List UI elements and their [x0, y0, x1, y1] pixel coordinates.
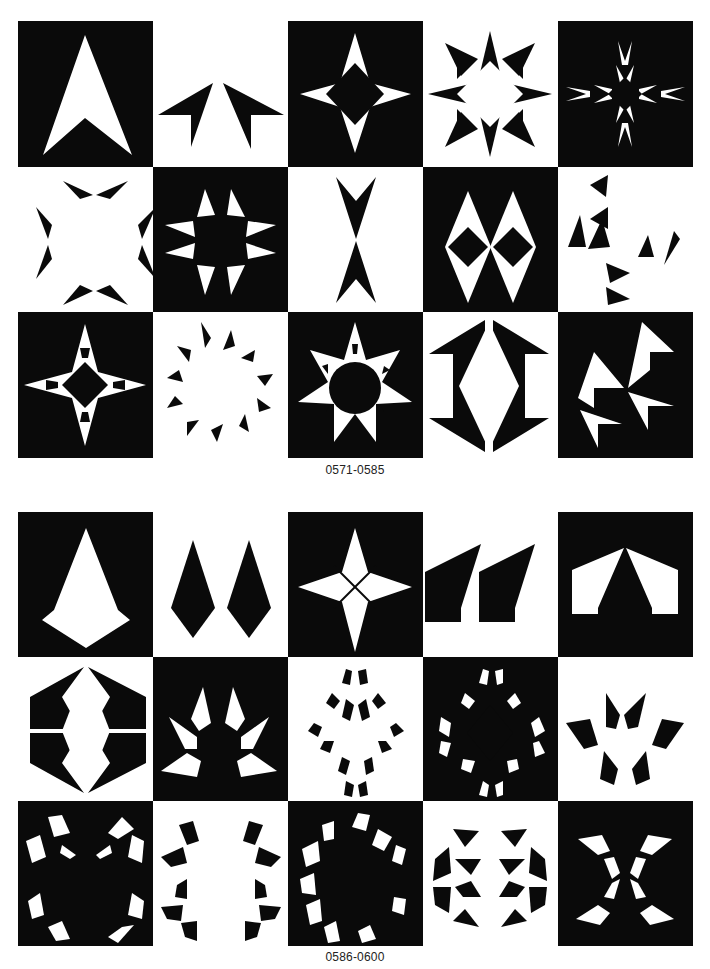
- tile-0586: [18, 512, 153, 657]
- twin-lozenges-icon: [423, 167, 558, 312]
- tile-0592: [153, 657, 288, 801]
- triskelion-icon: [558, 167, 693, 312]
- tile-0579: [423, 167, 558, 312]
- four-point-star-icon: [288, 21, 423, 167]
- tile-0595: [558, 657, 693, 801]
- barbed-wings-icon: [153, 21, 288, 167]
- arrowhead-icon: [18, 21, 153, 167]
- tile-0581: [18, 312, 153, 458]
- hexagonal-shard-web-icon: [423, 801, 558, 946]
- tile-0590: [558, 512, 693, 657]
- crossed-star-icon: [288, 512, 423, 657]
- barbed-quatrefoil-icon: [153, 167, 288, 312]
- seven-point-star-icon: [288, 312, 423, 458]
- tile-0599: [423, 801, 558, 946]
- tent-arch-icon: [558, 512, 693, 657]
- slanted-blocks-icon: [423, 512, 558, 657]
- tile-0576: [18, 167, 153, 312]
- caption-0586-0600: 0586-0600: [0, 950, 710, 964]
- tile-0597: [153, 801, 288, 946]
- tile-0585: [558, 312, 693, 458]
- tile-0571: [18, 21, 153, 167]
- tile-0584: [423, 312, 558, 458]
- tile-0600: [558, 801, 693, 946]
- tile-0572: [153, 21, 288, 167]
- opposed-arrowheads-icon: [288, 167, 423, 312]
- ring-of-shards-icon: [153, 801, 288, 946]
- c-ring-of-shards-icon: [288, 801, 423, 946]
- split-hexagon-icon: [18, 657, 153, 801]
- six-shard-cluster-icon: [558, 657, 693, 801]
- tile-0578: [288, 167, 423, 312]
- shard-lattice-inverse-icon: [423, 657, 558, 801]
- tile-0589: [423, 512, 558, 657]
- eight-point-star-icon: [423, 21, 558, 167]
- tile-0580: [558, 167, 693, 312]
- barb-ring-icon: [18, 167, 153, 312]
- crown-of-shards-icon: [153, 657, 288, 801]
- tile-0598: [288, 801, 423, 946]
- tile-0583: [288, 312, 423, 458]
- notched-star-icon: [18, 312, 153, 458]
- tile-0596: [18, 801, 153, 946]
- twin-kite-icon: [153, 512, 288, 657]
- tile-grid-0586-0600: [18, 512, 693, 946]
- tile-0587: [153, 512, 288, 657]
- hourglass-x-icon: [558, 801, 693, 946]
- tile-0577: [153, 167, 288, 312]
- tile-0591: [18, 657, 153, 801]
- bracket-diamond-icon: [423, 312, 558, 458]
- caption-0571-0585: 0571-0585: [0, 463, 710, 477]
- tile-0582: [153, 312, 288, 458]
- sunburst-icon: [153, 312, 288, 458]
- barb-cross-icon: [558, 21, 693, 167]
- tile-0594: [423, 657, 558, 801]
- tile-0593: [288, 657, 423, 801]
- x-of-shards-icon: [18, 801, 153, 946]
- tile-0573: [288, 21, 423, 167]
- shard-lattice-icon: [288, 657, 423, 801]
- kite-pendant-icon: [18, 512, 153, 657]
- tile-grid-0571-0585: [18, 21, 693, 458]
- tile-0588: [288, 512, 423, 657]
- tile-0575: [558, 21, 693, 167]
- triple-barbed-arrows-icon: [558, 312, 693, 458]
- tile-0574: [423, 21, 558, 167]
